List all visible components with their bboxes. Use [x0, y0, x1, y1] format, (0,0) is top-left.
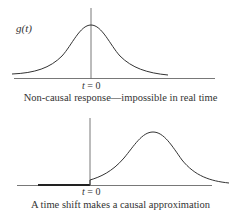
top-gaussian-curve [12, 25, 168, 75]
top-y-axis-label: g(t) [16, 22, 32, 34]
top-caption: Non-causal response—impossible in real t… [0, 92, 241, 103]
bottom-caption: A time shift makes a causal approximatio… [0, 199, 241, 210]
t-equals-zero: = 0 [85, 80, 101, 91]
bottom-shifted-curve [90, 132, 229, 185]
bottom-t0-label: t = 0 [82, 186, 100, 197]
diagram-canvas [0, 0, 241, 213]
t-equals-zero: = 0 [85, 186, 101, 197]
bottom-chart [17, 118, 229, 186]
top-chart [12, 8, 215, 79]
top-t0-label: t = 0 [82, 80, 100, 91]
